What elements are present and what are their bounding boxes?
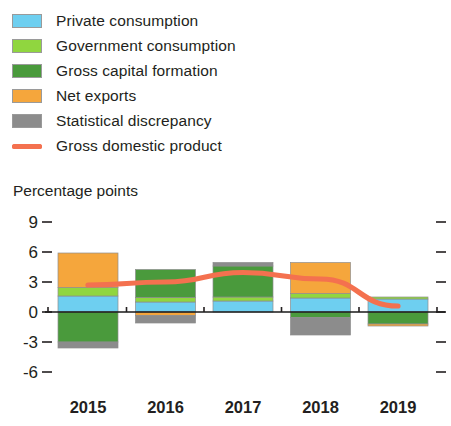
color-swatch-icon (12, 114, 42, 128)
bar-segment[interactable] (136, 302, 196, 312)
legend-item-label: Statistical discrepancy (56, 112, 212, 130)
bar-segment[interactable] (291, 294, 351, 299)
y-axis-title: Percentage points (13, 182, 138, 200)
legend-item-label: Gross domestic product (56, 137, 222, 155)
bar-segment[interactable] (213, 301, 273, 312)
chart-svg: 9630-3-620152016201720182019 (0, 206, 451, 426)
bar-segment[interactable] (368, 312, 428, 324)
chart-figure: Private consumptionGovernment consumptio… (0, 0, 451, 426)
legend-item-label: Private consumption (56, 12, 198, 30)
y-tick-label: -6 (23, 363, 38, 382)
x-axis-label: 2016 (147, 398, 184, 416)
bar-group[interactable] (291, 263, 351, 336)
color-swatch-icon (12, 64, 42, 78)
bar-segment[interactable] (213, 263, 273, 267)
color-swatch-icon (12, 89, 42, 103)
legend-item[interactable]: Private consumption (12, 8, 442, 33)
y-tick-label: 3 (29, 273, 38, 292)
chart-legend: Private consumptionGovernment consumptio… (12, 8, 442, 158)
bar-group[interactable] (136, 270, 196, 324)
legend-item[interactable]: Gross domestic product (12, 133, 442, 158)
bar-segment[interactable] (368, 297, 428, 299)
bar-segment[interactable] (58, 312, 118, 342)
color-swatch-icon (12, 14, 42, 28)
y-tick-label: 6 (29, 243, 38, 262)
legend-item[interactable]: Net exports (12, 83, 442, 108)
legend-item-label: Gross capital formation (56, 62, 218, 80)
bar-segment[interactable] (136, 298, 196, 303)
x-axis-label: 2018 (302, 398, 339, 416)
legend-item[interactable]: Gross capital formation (12, 58, 442, 83)
legend-item-label: Net exports (56, 87, 136, 105)
bar-segment[interactable] (58, 296, 118, 312)
plot-area: 9630-3-620152016201720182019 (0, 206, 451, 426)
y-tick-label: -3 (23, 333, 38, 352)
x-axis-label: 2017 (225, 398, 262, 416)
line-swatch-icon (12, 139, 42, 153)
x-axis-label: 2019 (380, 398, 417, 416)
y-tick-label: 9 (29, 213, 38, 232)
color-swatch-icon (12, 39, 42, 53)
y-tick-label: 0 (29, 303, 38, 322)
legend-item[interactable]: Government consumption (12, 33, 442, 58)
legend-item[interactable]: Statistical discrepancy (12, 108, 442, 133)
bar-segment[interactable] (58, 288, 118, 297)
bar-segment[interactable] (213, 297, 273, 301)
x-axis-label: 2015 (70, 398, 107, 416)
bar-group[interactable] (58, 253, 118, 348)
bar-segment[interactable] (136, 316, 196, 324)
bar-segment[interactable] (58, 342, 118, 348)
bar-segment[interactable] (368, 324, 428, 326)
bar-segment[interactable] (291, 318, 351, 336)
bar-segment[interactable] (291, 298, 351, 312)
legend-item-label: Government consumption (56, 37, 236, 55)
